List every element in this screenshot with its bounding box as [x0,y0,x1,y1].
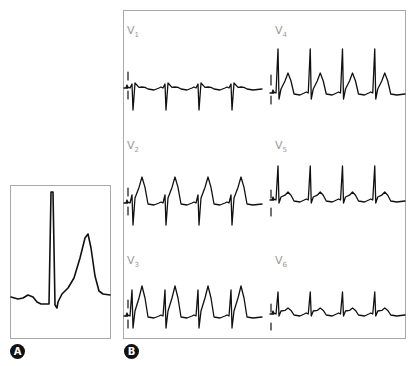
lead-trace-v2 [124,177,262,225]
beat-trace-panel-a [11,192,110,308]
lead-trace-v4 [270,49,405,99]
lead-trace-v1 [124,83,262,110]
lead-trace-v5 [270,166,405,203]
lead-trace-v3 [124,286,262,328]
lead-trace-v6 [270,292,405,316]
ecg-traces [0,0,414,366]
